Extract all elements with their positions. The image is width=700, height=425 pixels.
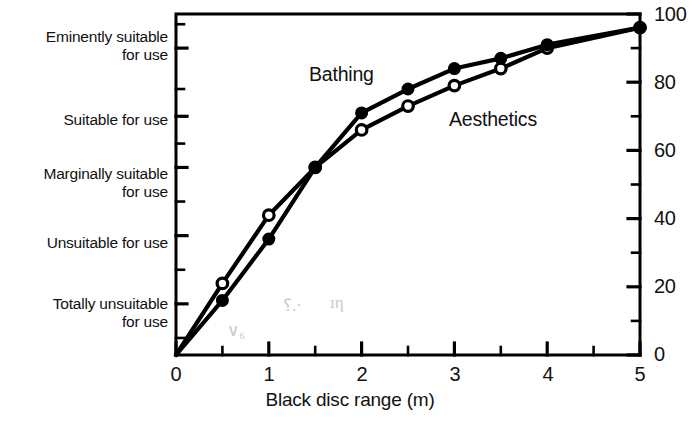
marker-bathing-2 [264, 234, 275, 245]
marker-bathing-8 [542, 39, 553, 50]
y-axis-right-ticks [628, 14, 640, 355]
series-line-bathing [176, 22, 645, 355]
axis-frame [176, 14, 640, 355]
plot-area [0, 0, 700, 425]
marker-aesthetics-2 [264, 210, 275, 221]
marker-bathing-1 [217, 295, 228, 306]
x-axis-ticks [176, 343, 640, 355]
marker-bathing-7 [496, 53, 507, 64]
chart-figure: Eminently suitable for use Suitable for … [0, 0, 700, 425]
polyline-aesthetics [176, 28, 640, 355]
series-line-aesthetics [176, 22, 645, 355]
marker-aesthetics-5 [403, 101, 414, 112]
marker-aesthetics-4 [356, 125, 367, 136]
marker-bathing-6 [449, 63, 460, 74]
polyline-bathing [176, 28, 640, 355]
marker-bathing-5 [403, 84, 414, 95]
plot-frame [176, 14, 640, 355]
marker-bathing-4 [356, 108, 367, 119]
marker-aesthetics-6 [449, 80, 460, 91]
marker-aesthetics-1 [217, 278, 228, 289]
marker-bathing-3 [310, 162, 321, 173]
marker-bathing-9 [635, 22, 646, 33]
y-axis-left-ticks [176, 24, 187, 338]
marker-aesthetics-7 [496, 63, 507, 74]
